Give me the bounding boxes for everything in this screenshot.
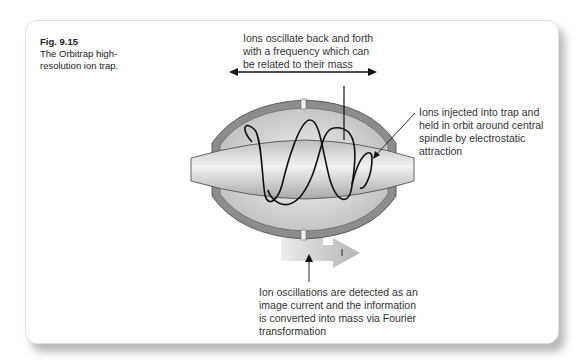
- annotation-ion-injection: Ions injected into trap and held in orbi…: [419, 106, 559, 158]
- annotation-image-current: Ion oscillations are detected as an imag…: [259, 286, 419, 338]
- annotation-axial-oscillation: Ions oscillate back and forth with a fre…: [243, 32, 383, 71]
